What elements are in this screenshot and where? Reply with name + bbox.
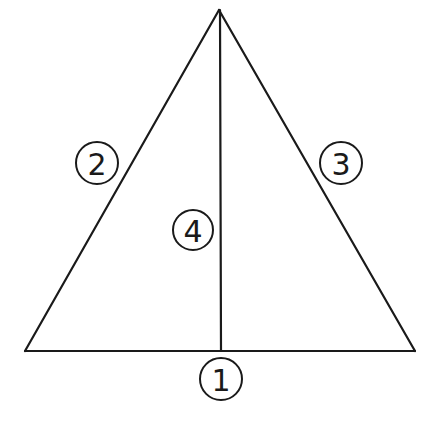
label-4-badge: 4 bbox=[173, 210, 213, 250]
label-1-text: 1 bbox=[211, 363, 230, 398]
left-side-line bbox=[25, 10, 219, 351]
right-side-line bbox=[219, 10, 415, 351]
label-2-badge: 2 bbox=[76, 142, 118, 184]
label-3-badge: 3 bbox=[320, 142, 362, 184]
median-line bbox=[220, 10, 221, 351]
label-4-text: 4 bbox=[183, 214, 202, 249]
label-3-text: 3 bbox=[331, 147, 350, 182]
label-2-text: 2 bbox=[87, 147, 106, 182]
triangle-diagram: 1 2 3 4 bbox=[0, 0, 438, 430]
label-1-badge: 1 bbox=[200, 358, 242, 400]
